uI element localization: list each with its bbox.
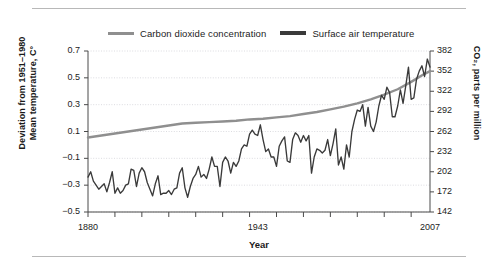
y-tick-label-right: 142 <box>437 206 471 216</box>
y-tick-label-right: 292 <box>437 105 471 115</box>
y-tick-label-right: 262 <box>437 126 471 136</box>
x-tick-label: 1880 <box>68 222 108 232</box>
x-tick-label: 1943 <box>238 222 278 232</box>
y-tick-label-left: −0.1 <box>46 152 80 162</box>
y-tick-label-left: −0.3 <box>46 179 80 189</box>
y-tick-label-right: 382 <box>437 45 471 55</box>
y-tick-label-left: −0.5 <box>46 206 80 216</box>
y-tick-label-right: 352 <box>437 65 471 75</box>
x-tick-label: 2007 <box>410 222 450 232</box>
y-tick-label-right: 322 <box>437 85 471 95</box>
y-tick-label-left: 0.1 <box>46 126 80 136</box>
y-tick-label-right: 232 <box>437 146 471 156</box>
series-line-temperature <box>88 59 430 197</box>
y-tick-label-left: 0.7 <box>46 45 80 55</box>
axis-ticks <box>84 51 434 217</box>
y-tick-label-left: 0.3 <box>46 99 80 109</box>
y-tick-label-right: 202 <box>437 166 471 176</box>
figure-container: Carbon dioxide concentration Surface air… <box>0 0 497 264</box>
y-tick-label-left: 0.5 <box>46 72 80 82</box>
y-tick-label-right: 172 <box>437 186 471 196</box>
data-series <box>88 59 430 197</box>
